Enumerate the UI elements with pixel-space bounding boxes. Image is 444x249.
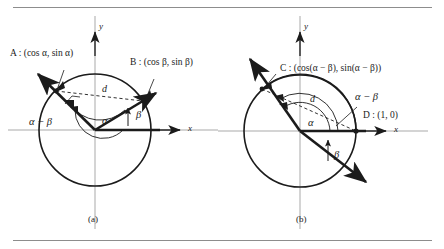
label-point-b: B : (cos β, sin β): [130, 58, 193, 68]
label-angle-diff-a: α − β: [29, 117, 52, 128]
panel-a: A : (cos α, sin α) B : (cos β, sin β) d …: [8, 14, 218, 229]
label-axis-x-a: x: [188, 124, 192, 133]
label-angle-diff-b: α − β: [355, 92, 378, 103]
label-chord-d-b: d: [310, 94, 315, 104]
leader-point-b-head: [143, 90, 152, 102]
caption-panel-a: (a): [88, 214, 98, 224]
arc-alpha-a: [75, 110, 123, 138]
label-angle-alpha-a: α: [102, 116, 108, 127]
figure-container: A : (cos α, sin α) B : (cos β, sin β) d …: [0, 0, 444, 249]
label-angle-alpha-b: α: [308, 118, 314, 129]
label-angle-beta-a: β: [136, 110, 141, 121]
label-chord-d-a: d: [102, 84, 107, 94]
label-point-d: D : (1, 0): [363, 111, 398, 121]
bottom-rule: [13, 240, 432, 241]
label-point-c: C : (cos(α − β), sin(α − β)): [280, 64, 381, 74]
label-axis-y-b: y: [304, 22, 308, 31]
label-angle-beta-b: β: [334, 150, 339, 161]
caption-panel-b: (b): [296, 214, 307, 224]
label-axis-y-a: y: [99, 22, 103, 31]
panel-b-drawing: [218, 14, 428, 229]
label-point-a: A : (cos α, sin α): [10, 49, 73, 59]
top-rule: [13, 7, 432, 8]
label-axis-x-b: x: [394, 125, 398, 134]
panel-b: C : (cos(α − β), sin(α − β)) D : (1, 0) …: [218, 14, 428, 229]
